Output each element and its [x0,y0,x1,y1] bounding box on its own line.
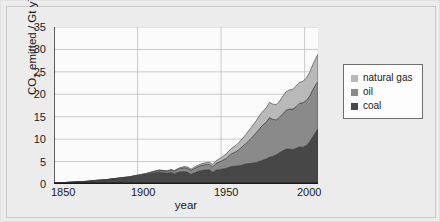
legend-label-natural-gas: natural gas [363,73,412,83]
legend-item-natural-gas[interactable]: natural gas [351,73,416,83]
y-tick-label-15: 15 [20,112,46,123]
stacked-area-chart [54,27,318,184]
y-tick-label-30: 30 [20,44,46,55]
y-tick-label-25: 25 [20,67,46,78]
plot-area [54,27,318,184]
y-tick-label-35: 35 [20,22,46,33]
figure-container: CO2 emitted / Gt y−1 35 30 25 20 15 10 5… [0,0,440,222]
x-axis-label: year [54,199,318,211]
x-tick-label-1950: 1950 [214,187,238,198]
y-tick-label-20: 20 [20,89,46,100]
x-tick-label-1850: 1850 [51,187,75,198]
legend-item-oil[interactable]: oil [351,87,416,97]
legend: natural gas oil coal [343,64,423,119]
legend-swatch-oil [351,89,358,96]
y-tick-label-5: 5 [20,157,46,168]
y-axis-label-middle: emitted / Gt y [26,2,38,74]
legend-label-oil: oil [363,87,373,97]
legend-swatch-coal [351,103,358,110]
y-tick-label-10: 10 [20,134,46,145]
legend-label-coal: coal [363,101,381,111]
y-axis-label-superscript: −1 [24,0,33,2]
figure-frame: CO2 emitted / Gt y−1 35 30 25 20 15 10 5… [6,6,436,218]
legend-item-coal[interactable]: coal [351,101,416,111]
x-tick-label-1900: 1900 [131,187,155,198]
x-tick-label-2000: 2000 [297,187,321,198]
legend-swatch-natural-gas [351,75,358,82]
y-tick-label-0: 0 [20,179,46,190]
